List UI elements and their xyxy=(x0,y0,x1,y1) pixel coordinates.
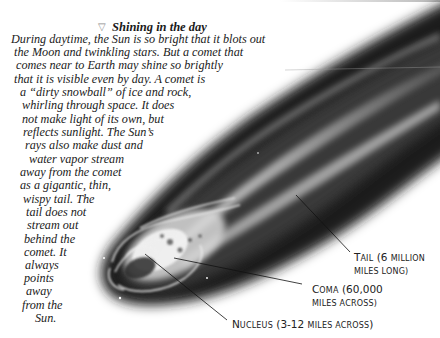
tail-label-million: MILLION xyxy=(391,254,425,263)
body-line: Sun. xyxy=(35,312,56,325)
nucleus-label-size: (3-12 xyxy=(273,318,308,330)
nucleus-label-close: ) xyxy=(369,318,373,330)
tail-label-smallcaps: AIL xyxy=(360,254,373,263)
body-line: stream out xyxy=(27,219,78,232)
tail-label: TAIL (6 MILLION MILES LONG) xyxy=(354,249,425,278)
encyclopedia-page: ▽Shining in the day During daytime, the … xyxy=(0,0,440,338)
nucleus-label: NUCLEUS (3-12 MILES ACROSS) xyxy=(232,316,373,332)
tail-label-line2: MILES LONG) xyxy=(354,265,425,278)
coma-label-size: (60,000 xyxy=(339,283,383,295)
body-line: whirling through space. It does xyxy=(22,99,174,112)
nucleus-label-across: MILES ACROSS xyxy=(308,321,370,330)
nucleus-label-initial: N xyxy=(232,318,240,330)
triangle-down-icon: ▽ xyxy=(98,21,106,32)
tail-label-paren: (6 xyxy=(373,251,390,263)
nucleus-label-smallcaps: UCLEUS xyxy=(240,321,273,330)
body-line: away xyxy=(26,285,52,298)
coma-label-smallcaps: OMA xyxy=(319,286,338,295)
body-line: comes near to Earth may shine so brightl… xyxy=(16,59,223,72)
coma-label-line2: MILES ACROSS) xyxy=(312,297,383,310)
body-line: rays also make dust and xyxy=(25,139,143,152)
body-line: as a gigantic, thin, xyxy=(20,179,111,192)
coma-label: COMA (60,000 MILES ACROSS) xyxy=(312,281,383,310)
